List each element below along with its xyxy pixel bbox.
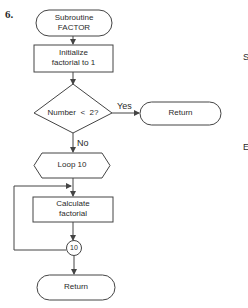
no-edge-label: No [77, 138, 89, 148]
end-terminal-label: Return [37, 282, 115, 292]
return-yes-label: Return [140, 108, 221, 118]
margin-fragment-bottom: E [243, 142, 248, 152]
yes-edge-label: Yes [117, 101, 132, 111]
init-process-label: Initialize factorial to 1 [34, 48, 113, 68]
decision-label: Number < 2? [34, 108, 112, 118]
connector-label: 10 [66, 243, 82, 253]
calc-line1: Calculate [33, 199, 113, 209]
init-line1: Initialize [34, 48, 113, 58]
figure-number: 6. [5, 8, 13, 20]
calc-process-label: Calculate factorial [33, 199, 113, 219]
start-line1: Subroutine [36, 13, 112, 23]
init-line2: factorial to 1 [34, 58, 113, 68]
start-terminal-label: Subroutine FACTOR [36, 13, 112, 33]
loop-label: Loop 10 [34, 160, 110, 170]
margin-fragment-top: S [243, 52, 248, 62]
start-line2: FACTOR [36, 23, 112, 33]
flowchart-canvas [0, 0, 248, 308]
calc-line2: factorial [33, 209, 113, 219]
